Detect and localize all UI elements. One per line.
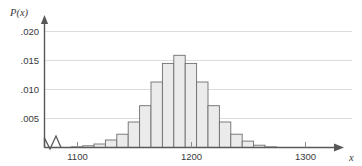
bar (128, 122, 139, 148)
bar (117, 134, 128, 147)
histogram-bars (71, 55, 276, 147)
chart-svg: .020 .015 .010 .005 1100 1200 1300 P(x) … (0, 0, 362, 166)
bar (185, 63, 196, 147)
bar (231, 134, 242, 147)
y-tick-label-010: .010 (21, 84, 40, 95)
y-tick-label-005: .005 (21, 113, 40, 124)
probability-distribution-chart: .020 .015 .010 .005 1100 1200 1300 P(x) … (0, 0, 362, 166)
y-axis-arrow-icon (41, 15, 48, 24)
bar (105, 140, 116, 148)
y-axis-title: P(x) (9, 7, 29, 19)
bar (140, 106, 151, 148)
bar (197, 82, 208, 148)
x-axis-title: x (348, 152, 354, 163)
bar (219, 122, 230, 148)
y-tick-label-020: .020 (21, 26, 40, 37)
bar (242, 141, 253, 147)
y-axis (41, 15, 48, 148)
x-tick-label-1200: 1200 (181, 151, 202, 162)
x-axis-arrow-icon (334, 144, 344, 152)
bar (174, 55, 185, 147)
y-tick-label-015: .015 (21, 55, 40, 66)
bar (208, 106, 219, 148)
x-tick-label-1100: 1100 (67, 151, 87, 162)
bar (151, 82, 162, 148)
bar (162, 63, 173, 147)
x-tick-label-1300: 1300 (295, 151, 316, 162)
